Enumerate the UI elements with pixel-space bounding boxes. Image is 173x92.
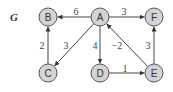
edge-a-d: 4 (93, 26, 101, 64)
edge-e-a: −2 (107, 24, 148, 67)
edge-e-f: 3 (146, 27, 155, 65)
edge-a-f: 3 (109, 6, 145, 18)
edge-weight-label: 6 (74, 6, 79, 17)
edge-weight-label: 3 (146, 40, 151, 51)
graph-title: G (10, 11, 18, 23)
edge-d-e: 1 (109, 63, 145, 74)
edge-arrow (54, 24, 93, 66)
edge-c-b: 2 (40, 27, 49, 65)
node-label: B (45, 12, 52, 23)
node-label: D (96, 68, 103, 79)
node-b: B (39, 8, 57, 26)
node-label: E (151, 68, 158, 79)
edge-weight-label: 3 (122, 6, 127, 17)
node-c: C (39, 64, 57, 82)
graph-diagram: G 63234−213 ABFCDE (0, 0, 173, 92)
edge-weight-label: 2 (40, 40, 45, 51)
node-label: C (44, 68, 51, 79)
nodes-group: ABFCDE (39, 8, 163, 82)
node-label: A (97, 12, 104, 23)
node-e: E (145, 64, 163, 82)
node-label: F (151, 12, 157, 23)
edge-a-c: 3 (54, 24, 93, 66)
edge-weight-label: 1 (123, 63, 128, 74)
edge-weight-label: 3 (64, 40, 69, 51)
node-a: A (91, 8, 109, 26)
node-d: D (91, 64, 109, 82)
edge-weight-label: −2 (112, 40, 123, 51)
node-f: F (145, 8, 163, 26)
edge-weight-label: 4 (93, 40, 98, 51)
edge-a-b: 6 (58, 6, 92, 18)
